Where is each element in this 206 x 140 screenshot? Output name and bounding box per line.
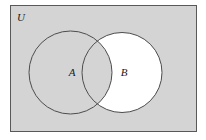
venn-diagram-figure: U A B [0,0,206,140]
universal-set-label: U [17,11,26,23]
venn-diagram-canvas: U A B [0,0,206,140]
set-a-label: A [68,66,76,78]
set-b-label: B [121,66,128,78]
